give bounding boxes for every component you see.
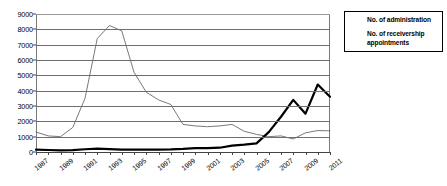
legend-label-receivership: No. of receivership appointments [367,30,439,47]
x-axis-tick-mark [269,152,270,155]
y-axis-tick-label: 1000 [17,132,33,141]
x-axis-tick-mark [85,152,86,155]
x-axis-tick-mark [134,152,135,155]
x-axis-tick-mark [244,152,245,155]
y-axis-tick-label: 5000 [17,71,33,80]
x-axis-tick-label: 2007 [278,157,294,172]
chart-legend: No. of administration No. of receivershi… [344,11,443,52]
x-axis-tick-label: 1987 [33,157,49,172]
chart-container: 0100020003000400050006000700080009000 19… [0,0,447,186]
x-axis-tick-mark [208,152,209,155]
legend-item-receivership: No. of receivership appointments [349,30,439,47]
x-axis-tick-mark [183,152,184,155]
y-axis-tick-label: 6000 [17,56,33,65]
gridline [36,45,330,46]
x-axis-tick-label: 1991 [82,157,98,172]
x-axis-tick-mark [281,152,282,155]
x-axis-tick-label: 2009 [303,157,319,172]
y-axis-tick-label: 3000 [17,102,33,111]
x-axis-tick-mark [110,152,111,155]
x-axis-tick-mark [146,152,147,155]
gridline [36,29,330,30]
x-axis-tick-mark [318,152,319,155]
y-axis-tick-label: 4000 [17,86,33,95]
x-axis-tick-mark [232,152,233,155]
x-axis-tick-label: 2003 [229,157,245,172]
x-axis-tick-mark [195,152,196,155]
x-axis-tick-label: 2005 [254,157,270,172]
x-axis-tick-mark [293,152,294,155]
x-axis-tick-label: 1997 [156,157,172,172]
x-axis-tick-mark [97,152,98,155]
gridline [36,121,330,122]
x-axis-tick-label: 1999 [180,157,196,172]
gridline [36,14,330,15]
y-axis-tick-label: 7000 [17,40,33,49]
x-axis-tick-mark [171,152,172,155]
legend-label-administration: No. of administration [367,16,431,24]
x-axis-tick-label: 1989 [58,157,74,172]
x-axis-tick-label: 2011 [327,157,343,172]
x-axis-tick-mark [48,152,49,155]
plot-area [36,14,330,152]
x-axis-tick-mark [36,152,37,155]
series-line-administration [36,85,330,151]
series-layer [36,14,330,152]
x-axis-tick-mark [330,152,331,155]
gridline [36,137,330,138]
x-axis-tick-mark [61,152,62,155]
x-axis-tick-mark [122,152,123,155]
y-axis-tick-label: 8000 [17,25,33,34]
x-axis-tick-mark [257,152,258,155]
x-axis: 1987198919911993199519971999200120032005… [36,152,330,186]
x-axis-tick-mark [73,152,74,155]
x-axis-tick-mark [159,152,160,155]
y-axis-tick-label: 9000 [17,10,33,19]
x-axis-tick-label: 2001 [205,157,221,172]
gridline [36,106,330,107]
legend-item-administration: No. of administration [349,16,439,24]
x-axis-tick-mark [306,152,307,155]
x-axis-tick-label: 1993 [107,157,123,172]
gridline [36,60,330,61]
gridline [36,75,330,76]
x-axis-tick-mark [220,152,221,155]
y-axis-tick-label: 2000 [17,117,33,126]
gridline [36,91,330,92]
y-axis: 0100020003000400050006000700080009000 [0,14,33,152]
x-axis-tick-label: 1995 [131,157,147,172]
